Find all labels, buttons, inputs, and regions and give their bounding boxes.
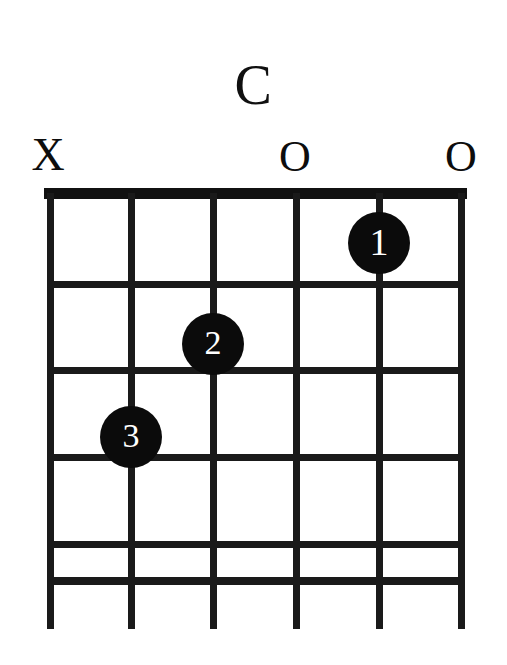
chord-name-label: C [0, 57, 507, 113]
finger-dot-2-label: 2 [205, 326, 222, 360]
fret-line-1 [47, 281, 464, 288]
nut-bar [44, 188, 467, 199]
fret-line-2 [47, 367, 464, 374]
string-marker-1-open: O [445, 134, 477, 180]
fret-line-4 [47, 541, 464, 548]
string-marker-6-muted: X [31, 132, 64, 178]
string-line-6 [47, 193, 54, 629]
chord-diagram-canvas: C X O O 1 2 3 [0, 0, 507, 665]
finger-dot-3: 3 [100, 406, 162, 468]
finger-dot-2: 2 [182, 313, 244, 375]
finger-dot-1: 1 [348, 212, 410, 274]
finger-dot-1-label: 1 [370, 223, 389, 261]
string-line-3 [293, 193, 300, 629]
string-line-4 [210, 193, 217, 629]
finger-dot-3-label: 3 [123, 419, 140, 453]
string-line-1 [458, 193, 465, 629]
fret-line-5 [47, 577, 464, 585]
string-marker-3-open: O [279, 134, 311, 180]
